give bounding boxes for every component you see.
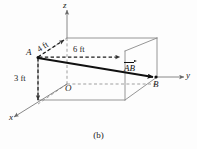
vector-overbar (124, 62, 134, 63)
coordinate-axes (14, 10, 184, 117)
box-hidden-edges (38, 38, 157, 104)
axis-label-x: x (9, 113, 13, 122)
axis-label-z: z (63, 1, 67, 10)
vector-label-text: AB (124, 63, 135, 73)
origin-label-O: O (65, 84, 72, 93)
vector-label-AB: AB (124, 64, 135, 73)
axis-x (14, 84, 67, 117)
point-label-A: A (26, 48, 32, 57)
dimension-label-3ft: 3 ft (14, 74, 26, 83)
dimension-label-6ft: 6 ft (73, 45, 85, 54)
point-label-B: B (153, 80, 159, 89)
axis-label-y: y (186, 71, 190, 80)
vector-diagram-svg (0, 0, 197, 149)
figure-caption: (b) (0, 130, 197, 140)
figure-container: z y x O A B 4 ft 6 ft 3 ft AB (b) (0, 0, 197, 149)
vector-overbar-arrow-icon (134, 60, 137, 62)
point-A-dot (37, 56, 40, 59)
